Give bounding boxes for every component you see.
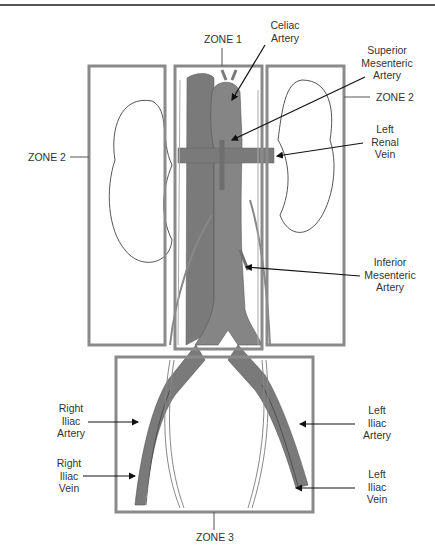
zone2-right-label: ZONE 2 bbox=[370, 91, 420, 104]
zone2-right-box bbox=[267, 66, 344, 345]
zone3-label: ZONE 3 bbox=[190, 531, 240, 544]
right-iliac-vein-label: Right Iliac Vein bbox=[44, 457, 94, 495]
inferior-mesenteric-artery-label: Inferior Mesenteric Artery bbox=[355, 256, 425, 294]
zone2-left-box bbox=[89, 66, 165, 345]
inferior-vena-cava bbox=[186, 74, 214, 346]
left-iliac-artery-label: Left Iliac Artery bbox=[352, 404, 402, 442]
right-kidney-outline bbox=[109, 100, 172, 262]
superior-mesenteric-artery-label: Superior Mesenteric Artery bbox=[352, 44, 422, 82]
left-kidney-outline bbox=[278, 80, 334, 232]
left-renal-vein-shape bbox=[178, 148, 274, 163]
left-iliac-vein-label: Left Iliac Vein bbox=[352, 468, 402, 506]
celiac-artery-label: Celiac Artery bbox=[260, 19, 310, 44]
zone2-left-label: ZONE 2 bbox=[22, 151, 72, 164]
right-iliac-vessels bbox=[135, 345, 205, 505]
right-iliac-artery-label: Right Iliac Artery bbox=[46, 402, 96, 440]
left-renal-vein-label: Left Renal Vein bbox=[360, 123, 410, 161]
zone1-label: ZONE 1 bbox=[198, 33, 248, 46]
